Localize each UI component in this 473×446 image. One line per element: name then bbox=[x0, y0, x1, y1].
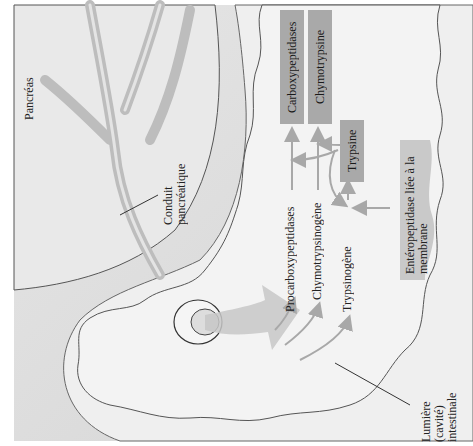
enteropeptidase-text: Entéropeptidase liée à la membrane bbox=[404, 148, 430, 274]
enzyme-label: Trypsine bbox=[340, 120, 364, 182]
zymogen-procarboxypeptidases: Procarboxypeptidases bbox=[284, 192, 297, 312]
label-duct-text: Conduit pancréatique bbox=[162, 145, 190, 225]
label-pancreatic-duct: Conduit pancréatique bbox=[162, 145, 190, 225]
label-pancreas: Pancréas bbox=[23, 60, 36, 120]
enzyme-carboxypeptidases: Carboxypeptidases bbox=[280, 10, 304, 124]
enzyme-chymotrypsin: Chymotrypsine bbox=[308, 10, 332, 124]
label-lumen-text: Lumière (cavité) intestinale bbox=[420, 380, 462, 442]
label-intestinal-lumen: Lumière (cavité) intestinale bbox=[420, 380, 462, 442]
enzyme-label: Chymotrypsine bbox=[308, 10, 332, 124]
enzyme-label: Carboxypeptidases bbox=[280, 10, 304, 124]
zymogen-trypsinogen: Trypsinogène bbox=[341, 232, 354, 312]
enteropeptidase-label: Entéropeptidase liée à la membrane bbox=[404, 148, 430, 274]
zymogen-chymotrypsinogen: Chymotrypsinogène bbox=[311, 192, 324, 300]
diagram: Pancréas Conduit pancréatique Lumière (c… bbox=[0, 0, 473, 446]
enzyme-trypsin: Trypsine bbox=[340, 120, 364, 182]
